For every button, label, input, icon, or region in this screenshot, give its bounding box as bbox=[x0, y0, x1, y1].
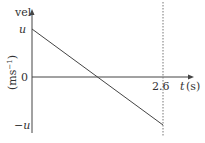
svg-text:(ms−1): (ms−1) bbox=[6, 55, 19, 90]
x-axis-arrow-icon bbox=[188, 75, 194, 80]
units-close: ) bbox=[6, 55, 19, 59]
x-axis-units: (s) bbox=[186, 80, 200, 93]
y-tick-u: u bbox=[19, 23, 26, 36]
y-tick-zero: 0 bbox=[21, 71, 28, 84]
x-axis-label-t: t bbox=[180, 80, 185, 93]
y-tick-neg-u: −u bbox=[14, 119, 30, 132]
units-text: (ms bbox=[6, 69, 19, 90]
velocity-time-graph: vel u 0 −u (ms−1) 2.6 t (s) bbox=[0, 0, 205, 143]
y-axis-label-vel: vel bbox=[14, 6, 32, 19]
y-axis-units: (ms−1) bbox=[6, 55, 19, 90]
x-tick-2-6: 2.6 bbox=[152, 80, 170, 93]
units-exponent: −1 bbox=[6, 59, 14, 69]
